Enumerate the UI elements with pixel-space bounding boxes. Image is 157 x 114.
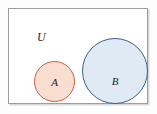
set-b-label: B: [83, 49, 147, 113]
universal-set-label: U: [37, 31, 46, 43]
set-a-label: A: [35, 62, 74, 101]
set-b-circle: B: [82, 38, 148, 104]
set-a-circle: A: [34, 61, 75, 102]
universal-set-rectangle: U A B: [8, 8, 148, 104]
venn-diagram-figure: U A B: [0, 0, 157, 114]
